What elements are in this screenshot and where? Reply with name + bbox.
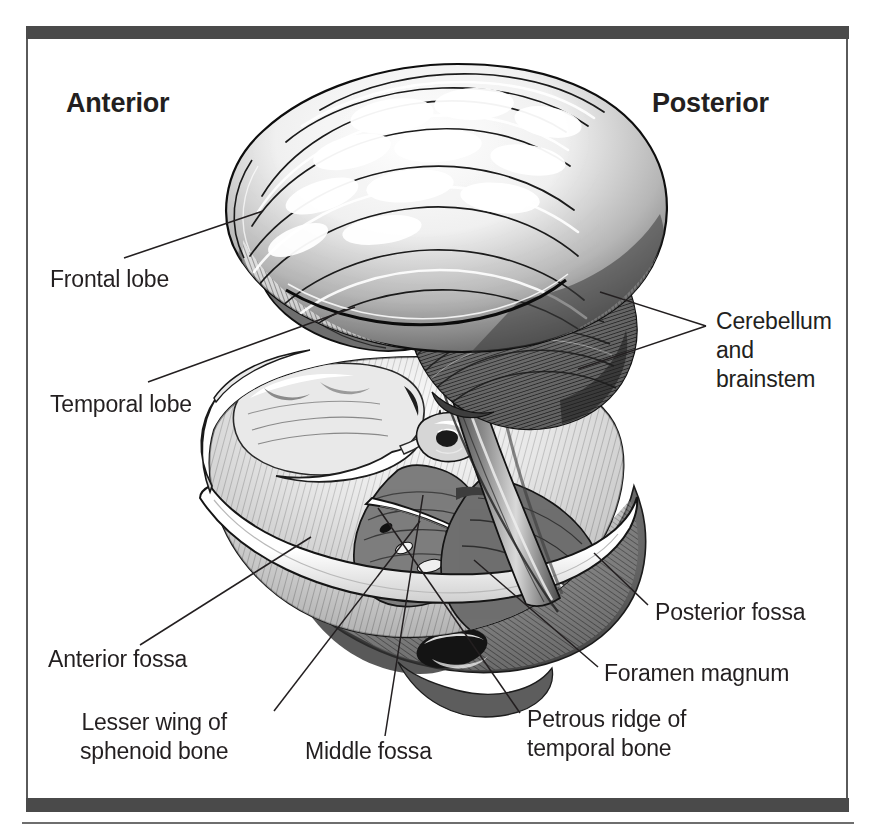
label-temporal-lobe: Temporal lobe	[50, 390, 192, 419]
label-anterior-fossa: Anterior fossa	[48, 645, 187, 674]
figure-root: Anterior Posterior Frontal lobe Temporal…	[0, 0, 876, 839]
label-frontal-lobe: Frontal lobe	[50, 265, 169, 294]
orientation-label-posterior: Posterior	[652, 88, 769, 119]
label-foramen-magnum: Foramen magnum	[604, 659, 789, 688]
label-cerebellum-and-brainstem: Cerebellum and brainstem	[716, 307, 832, 394]
label-petrous-ridge-of-temporal-bone: Petrous ridge of temporal bone	[527, 705, 686, 763]
label-posterior-fossa: Posterior fossa	[655, 598, 805, 627]
label-lesser-wing-of-sphenoid-bone: Lesser wing of sphenoid bone	[80, 708, 228, 766]
orientation-label-anterior: Anterior	[66, 88, 169, 119]
label-middle-fossa: Middle fossa	[305, 737, 432, 766]
